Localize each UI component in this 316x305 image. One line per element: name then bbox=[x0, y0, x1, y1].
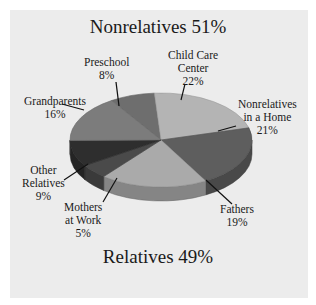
label-text: Preschool bbox=[84, 56, 129, 69]
label-text: Child Care bbox=[168, 49, 218, 62]
label-text: Mothers bbox=[64, 201, 102, 214]
label-nonrelatives-home: Nonrelatives in a Home 21% bbox=[238, 98, 297, 137]
label-grandparents: Grandparents 16% bbox=[24, 95, 86, 121]
label-preschool: Preschool 8% bbox=[84, 56, 129, 82]
label-text: Nonrelatives bbox=[238, 98, 297, 111]
label-child-care: Child Care Center 22% bbox=[168, 49, 218, 88]
label-percent: 19% bbox=[220, 216, 254, 229]
label-text: Grandparents bbox=[24, 95, 86, 108]
chart-subtitle: Relatives 49% bbox=[0, 246, 316, 268]
label-mothers: Mothers at Work 5% bbox=[64, 201, 102, 240]
label-percent: 21% bbox=[238, 124, 297, 137]
label-text: at Work bbox=[64, 214, 102, 227]
label-percent: 16% bbox=[24, 108, 86, 121]
label-text: Relatives bbox=[22, 177, 65, 190]
label-text: Fathers bbox=[220, 203, 254, 216]
label-percent: 22% bbox=[168, 75, 218, 88]
label-percent: 9% bbox=[22, 190, 65, 203]
label-text: Other bbox=[22, 164, 65, 177]
label-percent: 5% bbox=[64, 227, 102, 240]
pie-top: PreschoolChild Care CenterNonrelatives i… bbox=[70, 93, 252, 187]
label-fathers: Fathers 19% bbox=[220, 203, 254, 229]
label-percent: 8% bbox=[84, 69, 129, 82]
label-text: Center bbox=[168, 62, 218, 75]
label-text: in a Home bbox=[238, 111, 297, 124]
label-other-relatives: Other Relatives 9% bbox=[22, 164, 65, 203]
